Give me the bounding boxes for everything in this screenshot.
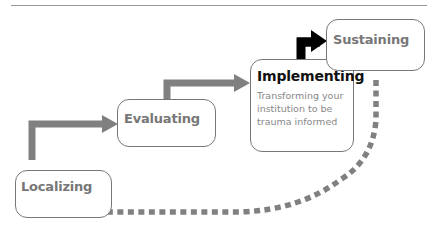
step-evaluating-label: Evaluating [124, 111, 200, 126]
step-implementing-description: Transforming your institution to be trau… [257, 89, 352, 128]
arrow-localizing-to-evaluating [32, 115, 118, 160]
step-localizing [15, 170, 112, 218]
arrow-implementing-to-sustaining [297, 30, 327, 61]
step-localizing-label: Localizing [21, 179, 92, 194]
step-sustaining-label: Sustaining [333, 32, 409, 47]
arrow-evaluating-to-implementing [167, 74, 250, 102]
